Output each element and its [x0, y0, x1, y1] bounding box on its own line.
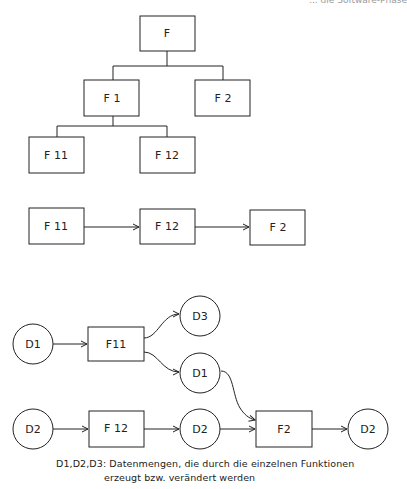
label-F11: F 11: [44, 149, 68, 162]
label-D1-output: D1: [192, 367, 207, 380]
label-D2-input: D2: [25, 423, 40, 436]
flow-label-F12: F 12: [104, 422, 128, 435]
seq-label-F11: F 11: [44, 220, 68, 233]
flow-arrow: [144, 314, 179, 338]
flow-arrow: [144, 352, 179, 372]
tree-connector: [57, 116, 167, 137]
flow-arrow: [221, 371, 255, 420]
caption-line-2: erzeugt bzw. verändert werden: [104, 472, 255, 483]
caption-line-1: D1,D2,D3: Datenmengen, die durch die ein…: [56, 458, 354, 469]
diagram-canvas: F F 1 F 2 F 11 F 12 F 11 F 12 F 2 D1 D3 …: [0, 0, 407, 489]
label-D2-mid: D2: [192, 423, 207, 436]
label-F12: F 12: [155, 149, 179, 162]
seq-label-F12: F 12: [155, 220, 179, 233]
tree-connector: [113, 51, 223, 80]
seq-label-F2: F 2: [270, 221, 287, 234]
flow-label-F2: F2: [277, 423, 290, 436]
label-D2-output: D2: [360, 423, 375, 436]
label-D1-input: D1: [25, 338, 40, 351]
flow-label-F11: F11: [106, 338, 126, 351]
label-F2: F 2: [215, 92, 232, 105]
label-D3: D3: [192, 310, 207, 323]
label-F: F: [164, 27, 170, 40]
label-F1: F 1: [104, 92, 121, 105]
